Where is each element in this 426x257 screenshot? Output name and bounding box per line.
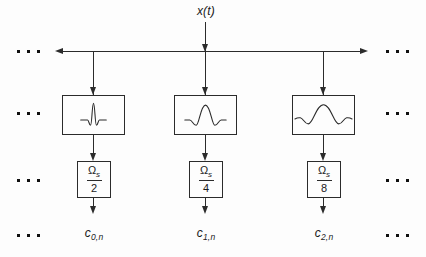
filter-box-1 bbox=[62, 95, 125, 135]
arrowhead-down-icon bbox=[320, 153, 326, 161]
connector-line bbox=[323, 135, 324, 154]
arrowhead-right-icon bbox=[360, 48, 368, 54]
sampling-rate-fraction: Ωs 2 bbox=[87, 165, 102, 195]
output-label-1: c0,n bbox=[64, 226, 124, 242]
sampling-rate-fraction: Ωs 8 bbox=[317, 165, 332, 195]
fraction-numerator: Ωs bbox=[200, 165, 212, 179]
arrowhead-down-icon bbox=[90, 153, 96, 161]
sampling-rate-box-2: Ωs 4 bbox=[189, 161, 223, 198]
fraction-numerator: Ωs bbox=[318, 165, 330, 179]
ellipsis-icon bbox=[17, 112, 40, 115]
filter-box-3 bbox=[292, 95, 355, 135]
arrowhead-down-icon bbox=[90, 87, 96, 95]
arrowhead-down-icon bbox=[202, 153, 208, 161]
connector-line bbox=[205, 135, 206, 154]
fraction-bar bbox=[87, 180, 102, 181]
output-label-2: c1,n bbox=[176, 226, 236, 242]
connector-line bbox=[93, 135, 94, 154]
arrowhead-down-icon bbox=[202, 87, 208, 95]
fraction-denominator: 2 bbox=[91, 183, 97, 194]
sampling-rate-box-3: Ωs 8 bbox=[307, 161, 341, 198]
fraction-denominator: 8 bbox=[321, 183, 327, 194]
sampling-rate-box-1: Ωs 2 bbox=[77, 161, 111, 198]
fraction-bar bbox=[317, 180, 332, 181]
input-stem-line bbox=[205, 22, 206, 95]
arrowhead-down-icon bbox=[90, 206, 96, 214]
ellipsis-icon bbox=[17, 179, 40, 182]
arrowhead-left-icon bbox=[55, 48, 63, 54]
sampling-rate-fraction: Ωs 4 bbox=[199, 165, 214, 195]
fraction-denominator: 4 bbox=[203, 183, 209, 194]
wavelet-medium-icon bbox=[175, 96, 236, 134]
filter-box-2 bbox=[174, 95, 237, 135]
distribution-bus-line bbox=[62, 51, 360, 52]
output-label-3: c2,n bbox=[294, 226, 354, 242]
arrowhead-down-icon bbox=[320, 206, 326, 214]
wavelet-narrow-icon bbox=[63, 96, 124, 134]
arrowhead-down-icon bbox=[202, 206, 208, 214]
input-signal-label: x(t) bbox=[186, 4, 226, 18]
arrowhead-down-icon bbox=[320, 87, 326, 95]
wavelet-wide-icon bbox=[293, 96, 354, 134]
wavelet-filter-bank-diagram: x(t) Ωs 2 bbox=[0, 0, 426, 257]
ellipsis-icon bbox=[386, 179, 409, 182]
ellipsis-icon bbox=[17, 50, 40, 53]
ellipsis-icon bbox=[386, 234, 409, 237]
fraction-bar bbox=[199, 180, 214, 181]
ellipsis-icon bbox=[386, 50, 409, 53]
fraction-numerator: Ωs bbox=[88, 165, 100, 179]
ellipsis-icon bbox=[386, 112, 409, 115]
ellipsis-icon bbox=[17, 234, 40, 237]
